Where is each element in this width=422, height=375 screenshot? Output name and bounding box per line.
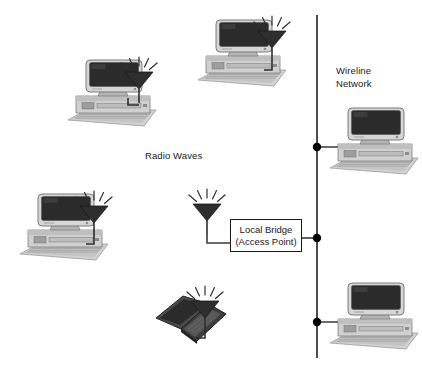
junction-dot-top xyxy=(313,143,321,151)
wired-pc-lower-right xyxy=(330,283,418,349)
local-bridge-label-line-2: (Access Point) xyxy=(235,236,296,248)
junction-dot-middle xyxy=(313,234,321,242)
radio-waves-label: Radio Waves xyxy=(145,150,202,162)
diagram-canvas xyxy=(0,0,422,375)
wireline-network-line-2: Network xyxy=(336,78,372,89)
local-bridge-box: Local Bridge (Access Point) xyxy=(230,219,302,252)
backbone-drop-links xyxy=(302,147,352,322)
wireless-pc-top-center xyxy=(198,16,290,86)
wired-pc-upper-right xyxy=(330,108,418,174)
junction-dot-bottom xyxy=(313,318,321,326)
wireline-network-line-1: Wireline xyxy=(336,65,371,76)
wireless-pc-middle-left xyxy=(20,191,112,260)
wireline-network-label: WirelineNetwork xyxy=(336,64,372,90)
local-bridge-label-line-1: Local Bridge xyxy=(240,224,293,236)
access-point-antenna xyxy=(189,189,230,243)
wireless-pc-top-left xyxy=(68,57,157,126)
network-diagram: Radio Waves WirelineNetwork Local Bridge… xyxy=(0,0,422,375)
wireless-laptop-bottom xyxy=(156,286,226,344)
